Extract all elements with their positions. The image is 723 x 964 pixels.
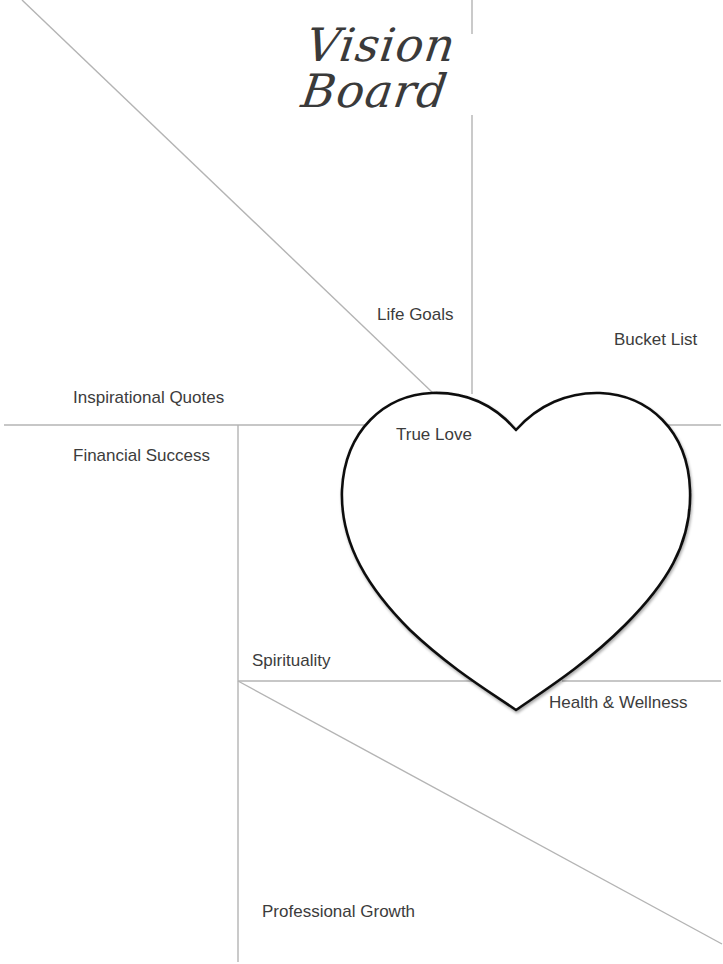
section-label-spirituality: Spirituality: [252, 652, 330, 669]
section-label-professional-growth: Professional Growth: [262, 903, 415, 920]
section-label-financial-success: Financial Success: [73, 447, 210, 464]
section-label-health-wellness: Health & Wellness: [549, 694, 688, 711]
vision-board-page: Vision Board Life Goals Bucket List Insp…: [0, 0, 723, 964]
section-label-bucket-list: Bucket List: [614, 331, 697, 348]
section-label-life-goals: Life Goals: [377, 306, 454, 323]
divider-lines: [0, 0, 723, 964]
page-title: Vision Board: [232, 22, 525, 114]
section-label-inspirational-quotes: Inspirational Quotes: [73, 389, 224, 406]
heart-shape: [342, 393, 690, 710]
section-label-true-love: True Love: [396, 426, 472, 443]
